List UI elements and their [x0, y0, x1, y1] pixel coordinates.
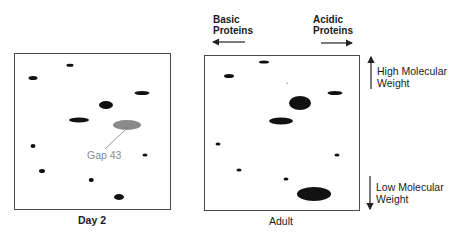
arrows-overlay: [0, 0, 464, 235]
gap43-leader-line: [105, 130, 125, 149]
